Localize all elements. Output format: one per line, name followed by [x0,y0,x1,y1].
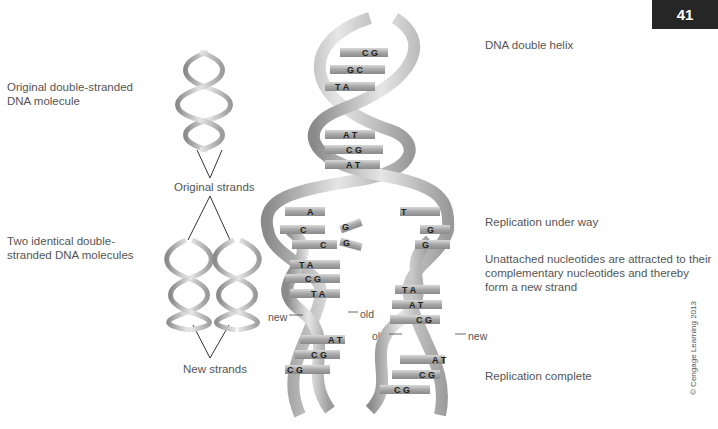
svg-text:C G: C G [419,370,435,380]
svg-text:T: T [401,207,407,217]
svg-text:C G: C G [287,365,303,375]
original-helix-icon [178,52,231,150]
svg-text:G: G [422,240,429,250]
svg-text:C G: C G [305,274,321,284]
svg-text:C G: C G [346,145,362,155]
daughter-helices-icon [167,240,260,330]
svg-text:T A: T A [335,82,350,92]
svg-text:A T: A T [409,300,424,310]
svg-text:C G: C G [394,385,410,395]
svg-text:C: C [300,225,307,235]
svg-text:G: G [343,238,350,248]
svg-text:T A: T A [311,289,326,299]
svg-text:A T: A T [343,130,358,140]
svg-text:A T: A T [328,335,343,345]
svg-text:G: G [427,225,434,235]
svg-text:T A: T A [402,285,417,295]
svg-text:C G: C G [311,350,327,360]
svg-text:C G: C G [362,48,378,58]
svg-text:T A: T A [299,260,314,270]
svg-text:C: C [320,240,327,250]
svg-text:A: A [307,207,314,217]
svg-text:C G: C G [416,315,432,325]
svg-text:G: G [342,222,349,232]
svg-text:A T: A T [432,355,447,365]
svg-text:G C: G C [347,65,364,75]
dna-replication-illustration: C GG CT A A TC GA T ACC TGG GG T AC GT A… [0,0,718,429]
svg-text:A T: A T [346,160,361,170]
